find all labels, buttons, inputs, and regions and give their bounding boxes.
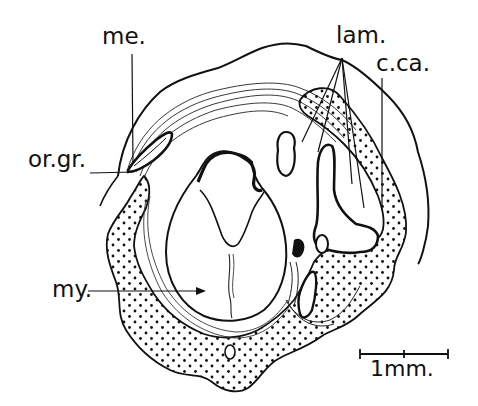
scale-bar-label: 1mm.	[370, 358, 434, 380]
lobe-upper	[277, 132, 294, 176]
label-my: my.	[52, 278, 92, 301]
vessel	[316, 235, 328, 253]
label-cca: c.ca.	[376, 52, 430, 75]
notochord	[225, 345, 235, 359]
spinal-cord	[166, 151, 286, 321]
figure: me. lam. c.ca. or.gr. my. 1mm.	[0, 0, 478, 406]
label-me: me.	[102, 25, 146, 48]
label-lam: lam.	[336, 24, 386, 47]
label-orgr: or.gr.	[28, 148, 86, 171]
